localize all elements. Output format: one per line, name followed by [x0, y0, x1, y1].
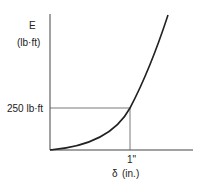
y-marker-label: 250 lb·ft: [7, 103, 43, 114]
x-marker-label: 1": [127, 154, 136, 165]
x-axis-symbol: δ: [112, 168, 118, 179]
energy-curve: [50, 15, 168, 150]
x-axis-unit: (in.): [122, 168, 139, 179]
y-axis-unit: (lb·ft): [17, 37, 40, 48]
energy-deflection-diagram: E (lb·ft) 250 lb·ft 1" δ (in.): [0, 0, 212, 181]
y-axis-label: E: [29, 20, 36, 31]
